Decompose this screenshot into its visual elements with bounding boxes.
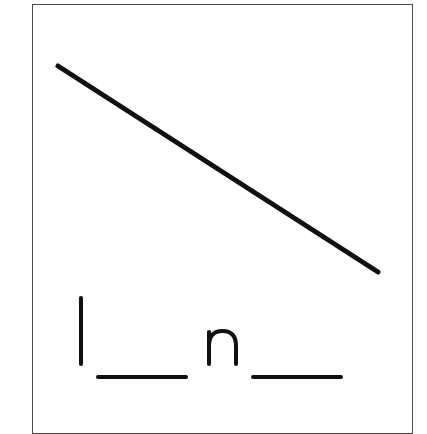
letter-n (209, 331, 236, 364)
line-picture (58, 66, 378, 272)
